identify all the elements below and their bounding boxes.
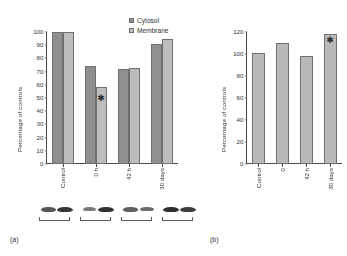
panel-a-plot-area: 0102030405060708090100✱ [46,32,178,164]
blot-bracket-part [69,217,70,221]
x-tick-label-42-h: 42 h [125,168,132,180]
blot-bracket-part [121,217,122,221]
x-tick-label-42-h: 42 h [303,168,310,180]
legend-item-cytosol: Cytosol [129,17,169,24]
x-tick-mark [258,164,259,167]
y-tick-30: 30 [37,121,44,127]
x-tick-label-0: 0 [279,168,286,171]
blot-band [140,207,154,211]
y-tick-100: 100 [33,29,43,35]
blot-band [123,207,138,212]
panel-a-y-axis-label: Percentage of controls [16,52,23,152]
blot-bracket-part [162,220,193,221]
y-tick-60: 60 [37,82,44,88]
x-tick-wrap: 0 h [79,168,112,177]
y-tick-mark [45,97,47,98]
x-tick-wrap: 30 days [318,168,342,190]
y-tick-mark [45,137,47,138]
blot-bracket-part [192,217,193,221]
y-tick-20: 20 [237,139,244,145]
panel-b-tag: (b) [210,236,219,243]
y-tick-70: 70 [37,68,44,74]
blot-band [98,207,114,212]
blot-bracket-part [151,217,152,221]
x-tick-wrap: Control [46,168,79,188]
y-tick-40: 40 [237,117,244,123]
y-tick-mark [45,163,47,164]
y-tick-mark [245,31,247,32]
y-tick-mark [245,163,247,164]
blot-band [180,207,196,212]
x-tick-mark [282,164,283,167]
x-tick-wrap: 42 h [112,168,145,180]
blot-bracket-part [80,220,111,221]
x-tick-mark [306,164,307,167]
y-tick-mark [245,75,247,76]
y-tick-mark [245,119,247,120]
blot-band [41,207,56,212]
x-tick-wrap: Control [246,168,270,188]
x-tick-mark [63,164,64,167]
y-tick-0: 0 [240,161,243,167]
blot-bracket-part [110,217,111,221]
y-tick-50: 50 [37,95,44,101]
blot-band [57,207,73,212]
y-tick-10: 10 [37,148,44,154]
bar-panel-b-0 [276,43,289,164]
blot-band [163,207,179,212]
bar-panel-b-42-h [300,56,313,164]
y-tick-mark [45,111,47,112]
bar-panel-a-30-days-membrane [162,39,173,164]
x-tick-mark [162,164,163,167]
y-tick-mark [45,150,47,151]
x-tick-label-control: Control [59,168,66,188]
panel-b-plot-area: 020406080100120✱ [246,32,342,164]
bar-panel-a-control-membrane [63,32,74,164]
bar-panel-a-control-cytosol [52,32,63,164]
blot-lane-group [159,205,200,231]
x-tick-label-30-days: 30 days [158,168,165,190]
panel-b-y-axis-label: Percentage of controls [220,52,227,152]
blot-bracket-part [39,220,70,221]
y-tick-mark [45,124,47,125]
y-tick-100: 100 [233,51,243,57]
legend-item-membrane: Membrane [129,27,169,34]
y-tick-120: 120 [233,29,243,35]
bar-panel-a-42-h-membrane [129,68,140,164]
western-blot-strip [36,205,200,231]
bar-panel-a-42-h-cytosol [118,69,129,164]
y-tick-90: 90 [37,42,44,48]
y-tick-60: 60 [237,95,244,101]
blot-band [83,207,96,211]
x-tick-wrap: 0 [270,168,294,171]
significance-marker: ✱ [97,94,105,103]
x-tick-label-30-days: 30 days [327,168,334,190]
y-tick-80: 80 [37,55,44,61]
legend-swatch-membrane [129,28,134,33]
y-tick-mark [45,84,47,85]
y-tick-mark [245,141,247,142]
x-tick-label-control: Control [255,168,262,188]
blot-bracket-part [80,217,81,221]
y-tick-mark [45,45,47,46]
x-tick-label-0-h: 0 h [92,168,99,177]
bar-panel-a-0-h-cytosol [85,66,96,164]
legend-panel-a: Cytosol Membrane [129,17,169,37]
blot-bracket-part [121,220,152,221]
panel-b: Percentage of controls 020406080100120✱ … [204,0,347,256]
figure-root: Percentage of controls 01020304050607080… [0,0,347,256]
panel-a-tag: (a) [10,236,19,243]
blot-lane-group [77,205,118,231]
y-tick-0: 0 [40,161,43,167]
x-tick-mark [330,164,331,167]
y-tick-40: 40 [37,108,44,114]
blot-bracket-part [39,217,40,221]
legend-label-membrane: Membrane [137,27,169,34]
x-tick-wrap: 30 days [145,168,178,190]
bar-panel-b-control [252,53,265,164]
y-tick-80: 80 [237,73,244,79]
blot-lane-group [118,205,159,231]
bar-panel-b-30-days [324,34,337,164]
y-tick-mark [45,71,47,72]
y-tick-mark [45,31,47,32]
